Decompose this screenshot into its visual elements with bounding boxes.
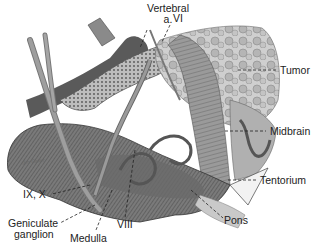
label-midbrain: Midbrain (270, 126, 310, 137)
label-ix-x: IX, X (23, 189, 46, 200)
label-geniculate-line2: ganglion (8, 229, 58, 240)
label-vertebral-line2: a. (143, 14, 193, 25)
label-geniculate-ganglion: Geniculate ganglion (8, 218, 58, 240)
bone-flap (88, 18, 115, 46)
label-medulla: Medulla (70, 233, 107, 244)
illustration (0, 0, 320, 248)
label-vertebral-artery: Vertebral a. (143, 3, 193, 25)
label-tentorium: Tentorium (260, 175, 306, 186)
label-vi: VI (173, 13, 183, 24)
label-viii: VIII (117, 219, 133, 230)
label-pons: Pons (224, 215, 248, 226)
label-tumor: Tumor (280, 65, 310, 76)
anatomical-diagram: Jim Gaiter Vertebral a. VI Tumor Midbrai… (0, 0, 320, 248)
